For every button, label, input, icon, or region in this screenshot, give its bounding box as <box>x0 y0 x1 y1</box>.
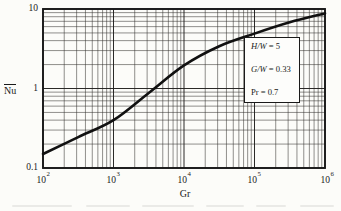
x-tick-exponent: 5 <box>258 170 261 177</box>
annotation-pr-value: = 0.7 <box>261 87 279 97</box>
smudge-mark <box>142 205 194 207</box>
x-tick-base: 10 <box>248 175 258 185</box>
x-tick-exponent: 3 <box>117 170 120 177</box>
annotation-hw: H/W= 5 <box>251 42 297 51</box>
x-tick-base: 10 <box>178 175 188 185</box>
smudge-mark <box>12 205 72 207</box>
x-axis-title: Gr <box>165 188 205 199</box>
x-tick-base: 10 <box>107 175 117 185</box>
annotation-hw-value: = 5 <box>269 41 280 51</box>
figure: Nu 10 1 0.1 102 103 104 105 106 Gr H/W= … <box>0 0 341 211</box>
smudge-mark <box>256 205 286 207</box>
smudge-mark <box>206 205 244 207</box>
annotation-pr: Pr= 0.7 <box>251 88 297 97</box>
x-tick-1e4: 104 <box>166 171 202 186</box>
annotation-pr-symbol: Pr <box>251 87 259 97</box>
smudge-mark <box>86 205 130 207</box>
cropped-caption-smudge <box>0 204 341 208</box>
y-tick-1: 1 <box>14 83 38 93</box>
x-tick-base: 10 <box>321 175 331 185</box>
annotation-gw: G/W= 0.33 <box>251 65 297 74</box>
x-tick-exponent: 6 <box>331 170 334 177</box>
annotation-gw-value: = 0.33 <box>269 64 291 74</box>
y-tick-10: 10 <box>14 3 38 13</box>
smudge-mark <box>300 205 334 207</box>
x-tick-base: 10 <box>37 175 47 185</box>
annotation-hw-symbol: H/W <box>251 41 267 51</box>
annotation-gw-symbol: G/W <box>251 64 267 74</box>
x-tick-1e3: 103 <box>95 171 131 186</box>
parameter-box: H/W= 5 G/W= 0.33 Pr= 0.7 <box>244 37 300 103</box>
x-tick-1e6: 106 <box>309 171 341 186</box>
x-tick-exponent: 4 <box>188 170 191 177</box>
x-tick-exponent: 2 <box>47 170 50 177</box>
x-tick-1e2: 102 <box>25 171 61 186</box>
x-tick-1e5: 105 <box>236 171 272 186</box>
